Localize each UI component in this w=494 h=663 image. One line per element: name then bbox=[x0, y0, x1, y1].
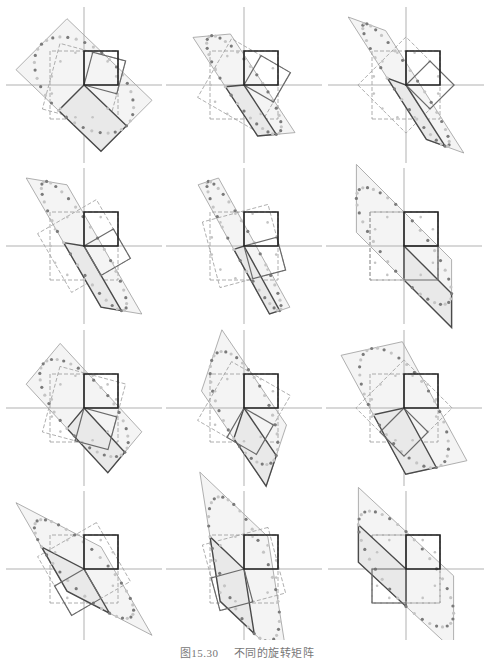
ellipse-dot bbox=[445, 430, 448, 433]
ellipse-dot bbox=[357, 523, 360, 526]
ellipse-dot bbox=[278, 620, 281, 623]
ellipse-dot bbox=[38, 372, 41, 375]
ellipse-dot bbox=[449, 297, 452, 300]
ellipse-dot bbox=[388, 517, 391, 520]
ellipse-dot bbox=[125, 124, 128, 127]
ellipse-dot bbox=[69, 362, 72, 365]
circle-dot bbox=[91, 439, 94, 442]
ellipse-dot bbox=[441, 625, 444, 628]
ellipse-dot bbox=[217, 495, 220, 498]
circle-dot bbox=[49, 245, 52, 248]
ellipse-dot bbox=[279, 307, 282, 310]
ellipse-dot bbox=[54, 185, 57, 188]
ellipse-dot bbox=[210, 501, 213, 504]
ellipse-dot bbox=[240, 219, 243, 222]
circle-dot bbox=[374, 261, 377, 264]
ellipse-dot bbox=[209, 381, 212, 384]
ellipse-dot bbox=[378, 423, 381, 426]
ellipse-dot bbox=[358, 373, 361, 376]
ellipse-dot bbox=[230, 352, 233, 355]
ellipse-dot bbox=[218, 77, 221, 80]
ellipse-dot bbox=[33, 61, 36, 64]
ellipse-dot bbox=[263, 394, 266, 397]
circle-dot bbox=[51, 92, 54, 95]
ellipse-dot bbox=[125, 302, 128, 305]
ellipse-dot bbox=[381, 578, 384, 581]
circle-dot bbox=[432, 261, 435, 264]
ellipse-dot bbox=[278, 114, 281, 117]
ellipse-dot bbox=[105, 299, 108, 302]
ellipse-dot bbox=[244, 518, 247, 521]
ellipse-dot bbox=[429, 133, 432, 136]
ellipse-dot bbox=[209, 372, 212, 375]
circle-dot bbox=[421, 597, 424, 600]
circle-dot bbox=[411, 439, 414, 442]
circle-dot bbox=[394, 439, 397, 442]
ellipse-dot bbox=[358, 517, 361, 520]
ellipse-dot bbox=[216, 215, 219, 218]
circle-dot bbox=[112, 261, 115, 264]
ellipse-dot bbox=[214, 559, 217, 562]
ellipse-dot bbox=[415, 461, 418, 464]
ellipse-dot bbox=[266, 90, 269, 93]
ellipse-dot bbox=[207, 515, 210, 518]
ellipse-dot bbox=[247, 368, 250, 371]
ellipse-dot bbox=[262, 551, 265, 554]
ellipse-dot bbox=[428, 557, 431, 560]
ellipse-dot bbox=[50, 219, 53, 222]
ellipse-dot bbox=[266, 130, 269, 133]
ellipse-dot bbox=[66, 36, 69, 39]
circle-dot bbox=[106, 107, 109, 110]
ellipse-dot bbox=[439, 303, 442, 306]
ellipse-dot bbox=[123, 309, 126, 312]
circle-dot bbox=[112, 551, 115, 554]
ellipse-dot bbox=[116, 307, 119, 310]
ellipse-dot bbox=[40, 43, 43, 46]
circle-dot bbox=[112, 584, 115, 587]
circle-dot bbox=[396, 52, 399, 55]
ellipse-dot bbox=[253, 632, 256, 635]
ellipse-dot bbox=[236, 50, 239, 53]
ellipse-dot bbox=[356, 203, 359, 206]
ellipse-dot bbox=[415, 118, 418, 121]
ellipse-dot bbox=[36, 77, 39, 80]
ellipse-dot bbox=[230, 94, 233, 97]
ellipse-dot bbox=[41, 193, 44, 196]
ellipse-dot bbox=[258, 385, 261, 388]
ellipse-dot bbox=[100, 607, 103, 610]
ellipse-dot bbox=[385, 433, 388, 436]
ellipse-dot bbox=[207, 53, 210, 56]
ellipse-dot bbox=[386, 77, 389, 80]
ellipse-dot bbox=[446, 135, 449, 138]
panel-6 bbox=[326, 164, 482, 327]
circle-dot bbox=[219, 591, 222, 594]
circle-dot bbox=[219, 221, 222, 224]
ellipse-dot bbox=[129, 616, 132, 619]
circle-dot bbox=[371, 398, 374, 401]
ellipse-dot bbox=[103, 453, 106, 456]
ellipse-dot bbox=[408, 108, 411, 111]
ellipse-dot bbox=[45, 180, 48, 183]
panel-4 bbox=[6, 168, 162, 324]
circle-dot bbox=[49, 568, 52, 571]
ellipse-dot bbox=[236, 102, 239, 105]
ellipse-dot bbox=[65, 116, 68, 119]
ellipse-dot bbox=[109, 455, 112, 458]
ellipse-dot bbox=[62, 359, 65, 362]
ellipse-dot bbox=[387, 41, 390, 44]
ellipse-dot bbox=[278, 299, 281, 302]
circle-dot bbox=[211, 236, 214, 239]
ellipse-dot bbox=[123, 451, 126, 454]
ellipse-dot bbox=[278, 610, 281, 613]
ellipse-dot bbox=[446, 587, 449, 590]
ellipse-dot bbox=[103, 248, 106, 251]
ellipse-dot bbox=[57, 523, 60, 526]
ellipse-dot bbox=[99, 131, 102, 134]
ellipse-dot bbox=[73, 434, 76, 437]
ellipse-dot bbox=[205, 185, 208, 188]
ellipse-dot bbox=[361, 220, 364, 223]
ellipse-dot bbox=[271, 132, 274, 135]
ellipse-dot bbox=[131, 98, 134, 101]
ellipse-dot bbox=[396, 523, 399, 526]
circle-dot bbox=[371, 415, 374, 418]
